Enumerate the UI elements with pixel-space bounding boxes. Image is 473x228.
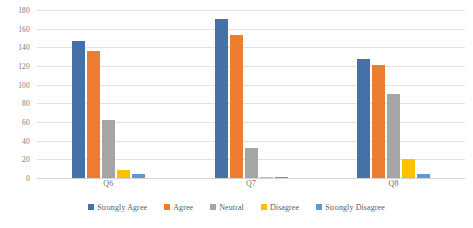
bar-group bbox=[37, 10, 180, 178]
y-axis-tick: 80 bbox=[22, 99, 30, 108]
legend-swatch-icon bbox=[88, 204, 94, 210]
legend-item[interactable]: Disagree bbox=[261, 203, 299, 212]
x-axis-label: Q7 bbox=[180, 179, 323, 195]
y-axis-tick: 180 bbox=[18, 6, 30, 15]
y-axis-tick: 140 bbox=[18, 43, 30, 52]
legend-swatch-icon bbox=[316, 204, 322, 210]
plot-wrapper: 020406080100120140160180 Q6Q7Q8 bbox=[0, 0, 473, 195]
bar[interactable] bbox=[357, 59, 370, 178]
legend-swatch-icon bbox=[164, 204, 170, 210]
legend-item[interactable]: Strongly Agree bbox=[88, 203, 147, 212]
y-axis-tick: 0 bbox=[26, 174, 30, 183]
bar[interactable] bbox=[117, 170, 130, 178]
legend-label: Strongly Agree bbox=[97, 203, 147, 212]
legend-label: Strongly Disagree bbox=[325, 203, 385, 212]
bar[interactable] bbox=[87, 51, 100, 178]
y-axis-tick: 120 bbox=[18, 62, 30, 71]
plot-area bbox=[37, 10, 465, 178]
x-axis: Q6Q7Q8 bbox=[37, 179, 465, 195]
bar[interactable] bbox=[72, 41, 85, 178]
legend-swatch-icon bbox=[210, 204, 216, 210]
bar[interactable] bbox=[230, 35, 243, 178]
bar[interactable] bbox=[102, 120, 115, 178]
legend-label: Agree bbox=[173, 203, 193, 212]
y-axis: 020406080100120140160180 bbox=[0, 10, 34, 178]
y-axis-tick: 100 bbox=[18, 80, 30, 89]
x-axis-label: Q6 bbox=[37, 179, 180, 195]
y-axis-tick: 60 bbox=[22, 118, 30, 127]
legend-label: Disagree bbox=[270, 203, 299, 212]
y-axis-tick: 160 bbox=[18, 24, 30, 33]
legend-item[interactable]: Strongly Disagree bbox=[316, 203, 385, 212]
bar-group bbox=[322, 10, 465, 178]
bar[interactable] bbox=[215, 19, 228, 178]
bar[interactable] bbox=[132, 174, 145, 178]
bar[interactable] bbox=[372, 65, 385, 178]
x-axis-label: Q8 bbox=[322, 179, 465, 195]
bar[interactable] bbox=[417, 174, 430, 178]
bar-group bbox=[180, 10, 323, 178]
legend-item[interactable]: Neutral bbox=[210, 203, 244, 212]
bar[interactable] bbox=[275, 177, 288, 178]
legend-label: Neutral bbox=[219, 203, 244, 212]
y-axis-tick: 40 bbox=[22, 136, 30, 145]
legend-swatch-icon bbox=[261, 204, 267, 210]
chart-legend: Strongly AgreeAgreeNeutralDisagreeStrong… bbox=[0, 200, 473, 214]
bar[interactable] bbox=[245, 148, 258, 178]
bar-groups bbox=[37, 10, 465, 178]
bar[interactable] bbox=[402, 159, 415, 178]
legend-item[interactable]: Agree bbox=[164, 203, 193, 212]
bar-chart: 020406080100120140160180 Q6Q7Q8 Strongly… bbox=[0, 0, 473, 228]
bar[interactable] bbox=[260, 177, 273, 178]
y-axis-tick: 20 bbox=[22, 155, 30, 164]
bar[interactable] bbox=[387, 94, 400, 178]
